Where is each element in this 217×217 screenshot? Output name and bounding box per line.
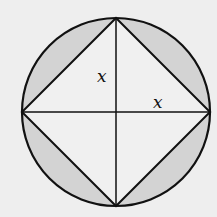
label-x-horizontal: x (153, 92, 163, 112)
diagram: x x (0, 0, 217, 217)
circle-square-figure: x x (0, 0, 217, 217)
label-x-vertical: x (97, 66, 107, 86)
